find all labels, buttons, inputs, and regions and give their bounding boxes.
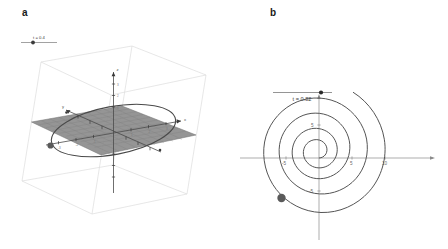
axis-y-label: y	[62, 104, 65, 109]
panel-a-plot: t = 0.4	[0, 0, 224, 249]
axes-2d	[240, 96, 433, 240]
svg-text:-3: -3	[58, 146, 61, 150]
panel-b: b t = 0.82	[224, 0, 448, 249]
moving-point-b	[277, 194, 285, 202]
arrow-z	[112, 72, 116, 76]
panel-a: a t = 0.4	[0, 0, 224, 249]
xtick-5: 5	[350, 161, 353, 166]
arrow-x	[177, 119, 182, 123]
axis-z-label: z	[117, 67, 119, 72]
svg-text:2: 2	[117, 94, 119, 98]
slider-a-label: t = 0.4	[33, 35, 45, 40]
box-bottom-face	[22, 165, 187, 214]
box-top-face	[41, 46, 206, 95]
xtick-minus5: -5	[282, 161, 287, 166]
ytick-5: 5	[311, 123, 314, 128]
arrow-x-b	[430, 156, 435, 160]
svg-text:3: 3	[117, 83, 119, 87]
slider-a-handle[interactable]	[31, 41, 35, 45]
svg-text:-1: -1	[93, 140, 96, 144]
slider-b-handle[interactable]	[319, 90, 323, 94]
moving-point-a	[47, 142, 53, 148]
axis-x-label: x	[184, 117, 187, 122]
figure-container: a t = 0.4	[0, 0, 448, 249]
svg-text:-2: -2	[76, 143, 79, 147]
slider-a[interactable]: t = 0.4	[21, 35, 57, 44]
panel-b-plot: t = 0.82	[224, 0, 448, 249]
axis-arrowheads-b	[317, 94, 435, 160]
